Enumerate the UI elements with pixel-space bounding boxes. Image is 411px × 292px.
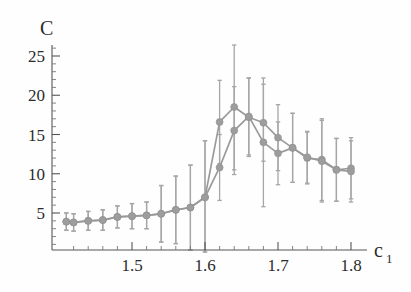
data-point-series-2-11 <box>216 164 223 171</box>
data-point-series-2-17 <box>304 154 311 161</box>
data-point-series-2-5 <box>129 213 136 220</box>
y-axis-title: C <box>40 17 53 39</box>
axis-labels-group: 1.51.61.71.8510152025Cc1 <box>28 17 393 275</box>
y-tick-label-2: 15 <box>28 126 45 145</box>
data-point-series-2-19 <box>333 166 340 173</box>
chart-plot: 1.51.61.71.8510152025Cc1 <box>0 0 411 292</box>
data-point-series-2-9 <box>187 204 194 211</box>
markers-group <box>63 104 355 226</box>
data-point-series-1-12 <box>231 104 238 111</box>
x-tick-label-1: 1.6 <box>194 256 215 275</box>
data-point-series-2-8 <box>172 206 179 213</box>
y-tick-label-3: 20 <box>28 86 45 105</box>
x-tick-label-2: 1.7 <box>267 256 289 275</box>
data-point-series-1-11 <box>216 118 223 125</box>
x-tick-label-3: 1.8 <box>340 256 361 275</box>
data-point-series-2-0 <box>63 218 70 225</box>
data-point-series-2-16 <box>289 144 296 151</box>
data-point-series-2-7 <box>158 210 165 217</box>
data-point-series-2-6 <box>143 212 150 219</box>
y-tick-label-4: 25 <box>28 47 45 66</box>
data-point-series-2-3 <box>99 217 106 224</box>
chart-container: 1.51.61.71.8510152025Cc1 <box>0 0 411 292</box>
data-point-series-2-14 <box>260 139 267 146</box>
data-point-series-2-12 <box>231 127 238 134</box>
data-point-series-2-2 <box>85 217 92 224</box>
y-tick-label-1: 10 <box>28 165 45 184</box>
data-point-series-2-15 <box>275 150 282 157</box>
data-point-series-2-18 <box>318 158 325 165</box>
data-point-series-1-15 <box>275 134 282 141</box>
data-point-series-1-14 <box>260 119 267 126</box>
data-point-series-2-4 <box>114 213 121 220</box>
series-lines-group <box>66 107 351 222</box>
series-line-series-1 <box>66 107 351 222</box>
data-point-series-2-20 <box>348 168 355 175</box>
x-tick-label-0: 1.5 <box>121 256 142 275</box>
data-point-series-2-1 <box>70 219 77 226</box>
x-axis-title-subscript: 1 <box>386 251 393 266</box>
errorbars-group <box>64 45 353 252</box>
y-tick-label-0: 5 <box>37 204 46 223</box>
x-axis-title: c <box>374 239 383 261</box>
data-point-series-2-13 <box>245 113 252 120</box>
data-point-series-2-10 <box>202 194 209 201</box>
